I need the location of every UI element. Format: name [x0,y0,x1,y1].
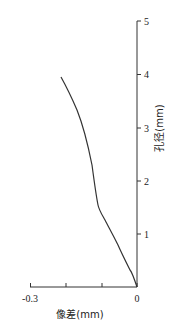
y-tick-label-4: 4 [144,69,149,80]
x-axis-title: 像差(mm) [56,308,103,320]
y-tick-label-2: 2 [144,176,149,187]
y-axis-title: 孔径(mm) [153,104,165,151]
aberration-curve [61,77,137,287]
aberration-chart: 5 4 3 2 1 孔径(mm) -0.3 0 像差(mm) [0,0,175,329]
y-tick-label-5: 5 [144,16,149,27]
x-axis-ticks [31,283,138,287]
x-tick-label-max: 0 [135,293,140,304]
y-axis-ticks [137,21,141,234]
y-tick-label-3: 3 [144,123,149,134]
x-tick-label-min: -0.3 [22,293,38,304]
y-tick-label-1: 1 [144,229,149,240]
